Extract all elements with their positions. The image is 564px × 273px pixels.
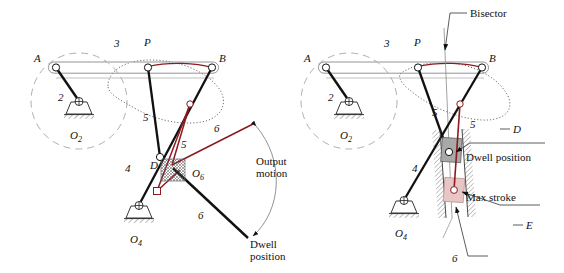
svg-text:6: 6 (200, 173, 204, 182)
joint-red-upper-left (187, 101, 193, 107)
label-max-stroke-right: Max stroke (466, 191, 516, 203)
ground-pivot-o4-right (389, 197, 419, 218)
svg-text:4: 4 (403, 233, 407, 242)
coupler-curve-right (400, 63, 510, 121)
label-point-e-right: E (525, 219, 533, 231)
ground-pivot-o2-left (64, 98, 94, 119)
svg-text:2: 2 (78, 135, 82, 144)
label-pivot-o2-left: O 2 (70, 129, 82, 144)
label-dwell-line1-left: Dwell (250, 238, 277, 250)
label-link5-lower-right: 5 (470, 118, 476, 130)
link6-right (443, 218, 452, 238)
ground-pivot-o2-right (334, 98, 364, 119)
label-point-a-left: A (33, 52, 41, 64)
label-link6-upper-left: 6 (214, 122, 220, 134)
label-pivot-o4-left: O 4 (130, 233, 142, 248)
svg-text:O: O (395, 227, 403, 239)
label-pivot-o6-left: O 6 (192, 167, 204, 182)
label-link2-right: 2 (328, 91, 334, 103)
label-pivot-o4-right: O 4 (395, 227, 407, 242)
ground-o6-left (161, 159, 185, 181)
label-link2-left: 2 (58, 91, 64, 103)
label-link4-left: 4 (125, 162, 131, 174)
ground-pivot-o4-left (124, 202, 154, 223)
label-link6-right: 6 (452, 252, 458, 264)
label-link5-lower-left: 5 (181, 138, 187, 150)
figure-root: A B P 3 2 4 5 5 6 6 D O 2 O 4 O 6 Output (0, 0, 564, 273)
joint-red-lower-left (154, 188, 161, 195)
label-link5-upper-right: 5 (432, 106, 438, 118)
joint-red-upper-right (457, 101, 463, 107)
label-bisector-right: Bisector (470, 7, 507, 19)
joint-a-left (52, 64, 59, 71)
label-dwell-line2-left: position (250, 250, 286, 262)
label-dwell-position-right: Dwell position (466, 151, 532, 163)
label-link4-right: 4 (412, 162, 418, 174)
label-link5-upper-left: 5 (143, 111, 149, 123)
label-point-d-right: D (512, 123, 521, 135)
label-point-d-left: D (149, 159, 158, 171)
output-motion-arc-left (253, 126, 276, 236)
label-point-a-right: A (303, 52, 311, 64)
linkage-figure-svg: A B P 3 2 4 5 5 6 6 D O 2 O 4 O 6 Output (0, 0, 564, 273)
svg-text:O: O (192, 167, 200, 179)
right-diagram-group: A B P 3 2 4 5 5 6 O 2 O 4 D E Bisector D… (301, 7, 545, 264)
svg-text:2: 2 (348, 135, 352, 144)
joint-p-right (414, 64, 421, 71)
joint-p-left (144, 64, 151, 71)
bisector-leader-right (445, 13, 467, 50)
svg-text:4: 4 (138, 239, 142, 248)
label-pivot-o2-right: O 2 (340, 129, 352, 144)
svg-text:O: O (340, 129, 348, 141)
link5-upper-left (148, 68, 160, 158)
label-point-p-left: P (143, 36, 151, 48)
label-output-motion-line1-left: Output (256, 155, 287, 167)
label-point-b-right: B (489, 52, 496, 64)
joint-b-right (478, 64, 485, 71)
svg-text:O: O (130, 233, 138, 245)
joint-b-left (208, 64, 215, 71)
label-link3-left: 3 (113, 37, 120, 49)
label-point-b-left: B (219, 52, 226, 64)
left-diagram-group: A B P 3 2 4 5 5 6 6 D O 2 O 4 O 6 Output (31, 36, 288, 262)
joint-e-right (451, 187, 458, 194)
joint-d-right (445, 148, 452, 155)
label-link3-right: 3 (383, 37, 390, 49)
svg-text:O: O (70, 129, 78, 141)
label-output-motion-line2-left: motion (256, 167, 288, 179)
label-point-p-right: P (413, 36, 421, 48)
joint-a-right (322, 64, 329, 71)
label-link6-lower-left: 6 (198, 209, 204, 221)
